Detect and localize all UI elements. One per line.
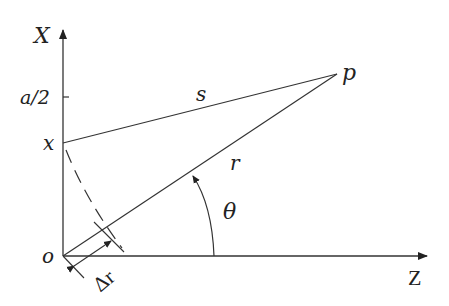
x-axis-label: X: [32, 23, 51, 48]
delta-r-tick-origin: [63, 256, 84, 278]
r-label: r: [230, 151, 241, 175]
s-label: s: [196, 82, 206, 106]
x-point-label: x: [43, 131, 54, 155]
geometry-diagram: X Z o x a/2 p s r θ Δr: [0, 0, 449, 306]
theta-arc: [193, 176, 214, 256]
delta-r-tick-outer: [94, 222, 124, 252]
dashed-arc: [66, 150, 122, 248]
p-label: p: [342, 60, 356, 85]
a-half-label: a/2: [20, 86, 50, 108]
origin-label: o: [42, 244, 54, 268]
delta-r-label: Δr: [88, 265, 119, 297]
theta-label: θ: [223, 199, 236, 224]
z-axis-label: Z: [408, 265, 421, 290]
